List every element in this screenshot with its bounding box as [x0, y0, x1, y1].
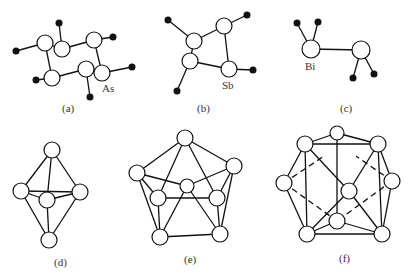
atom: [352, 41, 370, 59]
atom: [39, 192, 55, 208]
atom: [44, 142, 60, 158]
cluster-structures-diagram: As (a) Sb (b) Bi (c): [0, 0, 410, 277]
element-label-as: As: [102, 82, 114, 94]
atom: [209, 190, 225, 206]
caption-c: (c): [340, 102, 353, 115]
atom: [226, 158, 242, 174]
element-label-sb: Sb: [222, 79, 234, 91]
atom: [44, 70, 60, 86]
atom: [129, 165, 145, 181]
atom: [374, 226, 390, 242]
caption-e: (e): [184, 253, 197, 266]
caption-a: (a): [62, 102, 75, 115]
atom: [54, 41, 70, 57]
panel-d: (d): [13, 142, 88, 269]
atom: [37, 35, 53, 51]
atom: [216, 18, 232, 34]
panel-c: Bi (c): [294, 19, 378, 116]
atom: [94, 65, 110, 81]
atom: [302, 40, 320, 58]
atom: [150, 190, 166, 206]
atom: [186, 33, 202, 49]
element-label-bi: Bi: [305, 60, 315, 72]
atom: [41, 232, 57, 248]
atom: [370, 136, 386, 152]
atom: [221, 61, 237, 77]
atom: [182, 53, 198, 69]
atom: [276, 175, 292, 191]
caption-d: (d): [54, 256, 67, 269]
panel-a: As (a): [13, 20, 136, 116]
atom: [152, 229, 168, 245]
panel-f: (f): [276, 126, 400, 265]
atom: [78, 61, 94, 77]
atom: [72, 184, 88, 200]
atom: [299, 226, 315, 242]
atom: [177, 130, 193, 146]
caption-b: (b): [197, 102, 210, 115]
atom: [297, 136, 313, 152]
atom: [329, 213, 345, 229]
panel-b: Sb (b): [165, 12, 257, 116]
atom: [13, 183, 29, 199]
atom: [341, 183, 357, 199]
atom: [330, 126, 344, 140]
atom: [86, 32, 102, 48]
atom: [384, 173, 400, 189]
panel-e: (e): [129, 130, 242, 266]
atom: [212, 226, 228, 242]
atom: [180, 179, 194, 193]
caption-f: (f): [339, 252, 350, 265]
